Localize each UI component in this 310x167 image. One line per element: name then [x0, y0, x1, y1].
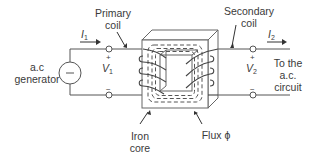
- label-line: circuit: [266, 81, 310, 93]
- arrow-right-icon: [96, 39, 101, 45]
- load-label: To the a.c. circuit: [266, 57, 310, 93]
- arrow-right-icon: [282, 39, 287, 45]
- label-line: a.c.: [266, 69, 310, 81]
- label-line: Iron: [125, 130, 155, 142]
- primary-terminal-plus: [106, 46, 112, 52]
- secondary-coil-label: Secondary coil: [218, 5, 280, 29]
- label-line: Secondary: [218, 5, 280, 17]
- flux-label: Flux ϕ: [196, 129, 236, 141]
- label-line: To the: [266, 57, 310, 69]
- flux-pointer: [196, 113, 202, 124]
- voltage-v1-label: V1: [102, 62, 113, 78]
- v2-minus-sign: −: [250, 86, 255, 94]
- label-line: generator: [12, 73, 62, 85]
- primary-coil-pointer: [117, 32, 125, 46]
- secondary-terminal-plus: [250, 46, 256, 52]
- symbol: V: [102, 62, 109, 74]
- subscript: 2: [271, 34, 275, 41]
- iron-core-pointer: [140, 112, 148, 124]
- label-line: coil: [88, 19, 138, 31]
- v1-plus-sign: +: [106, 54, 111, 62]
- v2-plus-sign: +: [250, 54, 255, 62]
- primary-coil-label: Primary coil: [88, 7, 138, 31]
- symbol: V: [246, 62, 253, 74]
- current-i1-label: I1: [81, 28, 88, 44]
- voltage-v2-label: V2: [246, 62, 257, 78]
- label-line: core: [125, 142, 155, 154]
- subscript: 2: [253, 68, 257, 75]
- v1-minus-sign: −: [106, 86, 111, 94]
- subscript: 1: [109, 68, 113, 75]
- current-i2-label: I2: [268, 28, 275, 44]
- arrowhead-icon: [194, 111, 198, 115]
- iron-core-label: Iron core: [125, 130, 155, 154]
- label-line: Primary: [88, 7, 138, 19]
- label-line: a.c: [12, 61, 62, 73]
- subscript: 1: [84, 34, 88, 41]
- generator-label: a.c generator: [12, 61, 62, 85]
